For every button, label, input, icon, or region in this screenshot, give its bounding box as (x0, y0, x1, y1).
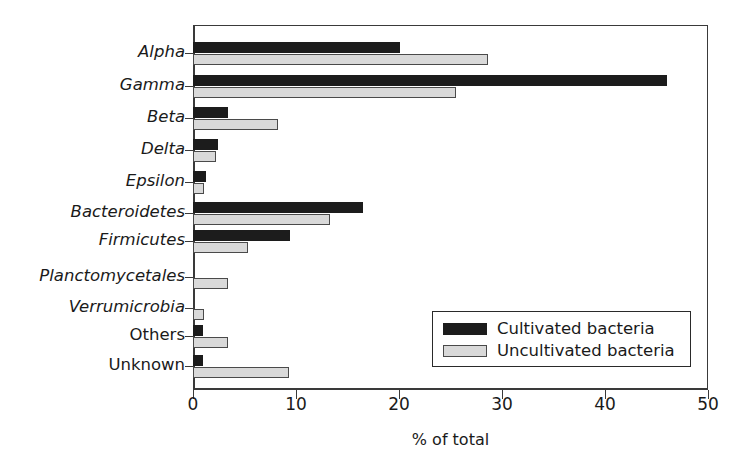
bar-uncultivated-bacteroidetes (193, 214, 330, 225)
legend-entry-uncultivated: Uncultivated bacteria (443, 340, 690, 362)
bar-uncultivated-firmicutes (193, 242, 248, 253)
legend-entry-cultivated: Cultivated bacteria (443, 318, 690, 340)
y-axis-label-planctomycetales: Planctomycetales (0, 268, 185, 285)
bar-uncultivated-verrumicrobia (193, 309, 204, 320)
bar-cultivated-gamma (193, 75, 667, 86)
y-axis-tick (185, 86, 193, 87)
y-axis-tick (185, 182, 193, 183)
bar-uncultivated-gamma (193, 87, 456, 98)
bar-uncultivated-alpha (193, 54, 488, 65)
y-axis-tick (185, 53, 193, 54)
chart-legend: Cultivated bacteria Uncultivated bacteri… (432, 311, 691, 367)
y-axis-label-others: Others (0, 327, 185, 344)
y-axis-tick (185, 336, 193, 337)
bar-cultivated-epsilon (193, 171, 206, 182)
y-axis-label-gamma: Gamma (0, 77, 185, 94)
x-axis-tick-label: 50 (697, 396, 719, 413)
bar-cultivated-firmicutes (193, 230, 290, 241)
x-axis-title: % of total (193, 430, 708, 449)
bar-uncultivated-delta (193, 151, 216, 162)
legend-label-uncultivated: Uncultivated bacteria (497, 343, 675, 360)
bar-cultivated-bacteroidetes (193, 202, 363, 213)
x-axis-tick-label: 30 (491, 396, 513, 413)
bar-cultivated-alpha (193, 42, 400, 53)
y-axis-label-beta: Beta (0, 109, 185, 126)
x-axis-tick-label: 20 (388, 396, 410, 413)
legend-label-cultivated: Cultivated bacteria (497, 321, 655, 338)
y-axis-label-alpha: Alpha (0, 44, 185, 61)
x-axis-tick-label: 10 (285, 396, 307, 413)
bar-cultivated-beta (193, 107, 228, 118)
y-axis-label-firmicutes: Firmicutes (0, 232, 185, 249)
bar-cultivated-others (193, 325, 203, 336)
y-axis-label-epsilon: Epsilon (0, 173, 185, 190)
bar-uncultivated-planctomycetales (193, 278, 228, 289)
bar-uncultivated-others (193, 337, 228, 348)
y-axis-tick (185, 308, 193, 309)
y-axis-tick (185, 150, 193, 151)
legend-swatch-cultivated (443, 323, 487, 335)
y-axis-tick (185, 277, 193, 278)
bar-uncultivated-unknown (193, 367, 289, 378)
bar-uncultivated-beta (193, 119, 278, 130)
y-axis-label-verrumicrobia: Verrumicrobia (0, 299, 185, 316)
x-axis-tick-label: 40 (594, 396, 616, 413)
y-axis-tick (185, 366, 193, 367)
y-axis-tick (185, 118, 193, 119)
legend-swatch-uncultivated (443, 345, 487, 357)
y-axis-tick (185, 213, 193, 214)
bar-uncultivated-epsilon (193, 183, 204, 194)
bar-cultivated-unknown (193, 355, 203, 366)
chart-figure: AlphaGammaBetaDeltaEpsilonBacteroidetesF… (0, 0, 743, 475)
y-axis-tick (185, 241, 193, 242)
y-axis-label-delta: Delta (0, 141, 185, 158)
y-axis-label-bacteroidetes: Bacteroidetes (0, 204, 185, 221)
y-axis-label-unknown: Unknown (0, 357, 185, 374)
x-axis-tick-label: 0 (188, 396, 199, 413)
bar-cultivated-delta (193, 139, 218, 150)
